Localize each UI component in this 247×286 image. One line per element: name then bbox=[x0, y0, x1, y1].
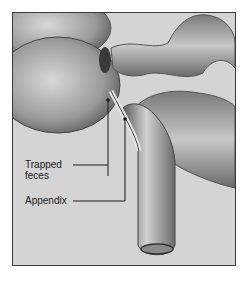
label-trapped-line: Trapped bbox=[25, 159, 62, 170]
small-intestine bbox=[111, 15, 235, 77]
label-feces-line: feces bbox=[25, 170, 62, 181]
illustration-frame: Trapped feces Appendix bbox=[12, 12, 236, 266]
intestine-illustration bbox=[13, 13, 235, 265]
appendix-tip-opening bbox=[141, 244, 173, 254]
cecum-opening bbox=[99, 47, 111, 73]
label-trapped-feces: Trapped feces bbox=[25, 159, 62, 181]
label-appendix: Appendix bbox=[25, 195, 67, 206]
